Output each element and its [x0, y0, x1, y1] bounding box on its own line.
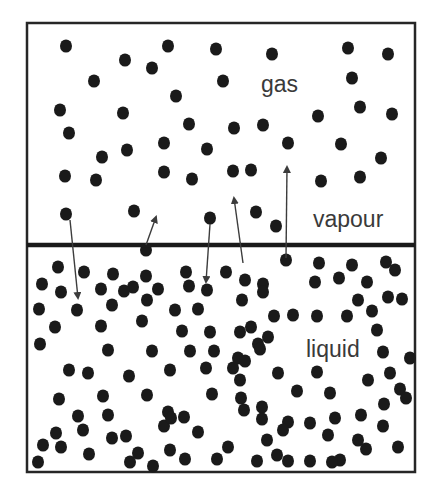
liquid-particle	[309, 275, 321, 288]
gas-particle	[270, 219, 282, 232]
liquid-particle	[333, 271, 345, 284]
liquid-particle	[341, 309, 353, 322]
liquid-particle	[106, 431, 118, 444]
liquid-particle	[37, 438, 49, 451]
liquid-particle	[192, 425, 204, 438]
gas-particle	[315, 174, 327, 187]
liquid-particle	[282, 454, 294, 467]
liquid-particle	[140, 269, 152, 282]
liquid-particle	[206, 387, 218, 400]
liquid-particle	[36, 277, 48, 290]
gas-particle	[201, 142, 213, 155]
liquid-particle	[304, 454, 316, 467]
liquid-particle	[220, 265, 232, 278]
gas-particle	[121, 143, 133, 156]
liquid-particle	[377, 345, 389, 358]
liquid-label: liquid	[306, 336, 360, 362]
liquid-particle	[102, 408, 114, 421]
liquid-particle	[32, 455, 44, 468]
condensation-arrow-1-icon	[70, 220, 78, 298]
liquid-particle	[176, 324, 188, 337]
liquid-particle	[141, 293, 153, 306]
liquid-particle	[208, 344, 220, 357]
liquid-particle	[262, 330, 274, 343]
gas-particle	[204, 211, 216, 224]
liquid-particle	[95, 319, 107, 332]
liquid-particle	[71, 303, 83, 316]
liquid-particle	[107, 267, 119, 280]
liquid-particle	[152, 282, 164, 295]
liquid-particle	[291, 384, 303, 397]
container-box	[27, 23, 415, 472]
liquid-particle	[257, 285, 269, 298]
gas-particle	[227, 164, 239, 177]
liquid-particle	[235, 391, 247, 404]
gas-particle	[312, 109, 324, 122]
liquid-particle	[83, 447, 95, 460]
liquid-particle	[55, 285, 67, 298]
liquid-particle	[234, 325, 246, 338]
liquid-particle	[362, 373, 374, 386]
liquid-particle	[95, 282, 107, 295]
gas-particle	[346, 71, 358, 84]
gas-particle	[382, 47, 394, 60]
evaporation-arrow-3-icon	[286, 167, 287, 258]
gas-particle	[228, 121, 240, 134]
liquid-particle	[329, 411, 341, 424]
liquid-particle	[123, 369, 135, 382]
liquid-particle	[55, 440, 67, 453]
liquid-particle	[184, 344, 196, 357]
liquid-particle	[102, 343, 114, 356]
liquid-particle	[227, 361, 239, 374]
liquid-particle	[378, 397, 390, 410]
gas-particle	[210, 42, 222, 55]
evaporation-arrow-1-icon	[146, 217, 156, 245]
liquid-particle	[366, 304, 378, 317]
gas-particle	[54, 103, 66, 116]
gas-particle	[217, 74, 229, 87]
liquid-particle	[355, 408, 367, 421]
liquid-particle	[63, 363, 75, 376]
liquid-particle	[261, 433, 273, 446]
liquid-particle	[136, 314, 148, 327]
liquid-particle	[164, 363, 176, 376]
gas-particle	[170, 89, 182, 102]
liquid-particle	[78, 265, 90, 278]
liquid-particle	[118, 284, 130, 297]
gas-particle	[117, 106, 129, 119]
liquid-particle	[268, 309, 280, 322]
gas-particle	[59, 169, 71, 182]
liquid-particle	[382, 290, 394, 303]
gas-particle	[183, 117, 195, 130]
liquid-particle	[49, 320, 61, 333]
liquid-particle	[256, 400, 268, 413]
gas-particle	[354, 100, 366, 113]
liquid-particle	[236, 293, 248, 306]
liquid-particle	[165, 411, 177, 424]
liquid-particle	[147, 459, 159, 472]
liquid-particle	[164, 443, 176, 456]
liquid-particle	[256, 412, 268, 425]
liquid-particle	[392, 440, 404, 453]
liquid-particle	[239, 354, 251, 367]
liquid-particle	[396, 292, 408, 305]
gas-particle	[60, 39, 72, 52]
liquid-particle	[326, 455, 338, 468]
liquid-particle	[287, 308, 299, 321]
liquid-particle	[124, 455, 136, 468]
liquid-particle	[204, 325, 216, 338]
liquid-particle	[238, 403, 250, 416]
gas-particle	[257, 118, 269, 131]
condensation-arrow-2-icon	[206, 224, 210, 282]
liquid-particle	[106, 298, 118, 311]
liquid-particle	[384, 366, 396, 379]
liquid-particle	[211, 452, 223, 465]
gas-particle	[96, 150, 108, 163]
gas-particle	[146, 61, 158, 74]
gas-particle	[60, 207, 72, 220]
liquid-vapour-equilibrium-diagram: gas vapour liquid	[0, 0, 441, 488]
gas-particle	[119, 53, 131, 66]
evaporation-arrow-2-icon	[234, 198, 243, 263]
liquid-particle	[77, 423, 89, 436]
liquid-particle	[371, 323, 383, 336]
